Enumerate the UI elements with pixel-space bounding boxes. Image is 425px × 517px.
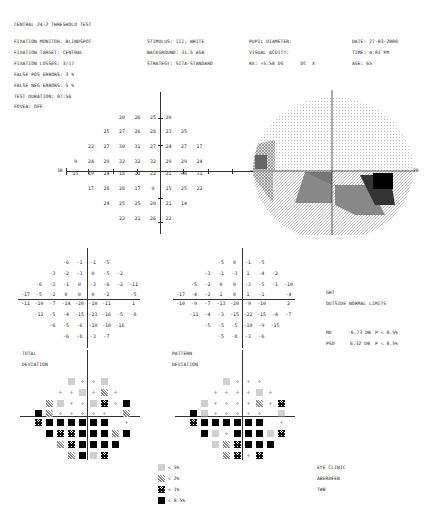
p05-icon — [123, 400, 130, 407]
p5-icon — [201, 400, 208, 407]
header-field: TIME: 4:01 PM — [352, 50, 389, 56]
header-field: FIXATION TARGET: CENTRAL — [14, 50, 83, 56]
deviation-value: -14 — [61, 301, 72, 307]
deviation-value: -11 — [189, 312, 200, 318]
fovea-status: FOVEA: OFF — [14, 104, 43, 110]
p05-icon — [245, 430, 252, 437]
deviation-value: -1 — [256, 292, 267, 298]
deviation-value: -9 — [256, 323, 267, 329]
threshold-value: 32 — [132, 159, 143, 165]
header-field: RX: +5.50 DS DC X — [249, 61, 315, 67]
p1-icon — [234, 452, 241, 459]
threshold-value: 25 — [117, 201, 128, 207]
deviation-value: -3 — [202, 271, 213, 277]
threshold-value: 25 — [179, 129, 190, 135]
deviation-value: -20 — [229, 301, 240, 307]
p05-icon — [245, 419, 252, 426]
deviation-value: -4 — [283, 292, 294, 298]
deviation-value: 0 — [229, 292, 240, 298]
deviation-value: -2 — [270, 271, 281, 277]
pd-label-line2: DEVIATION — [172, 362, 198, 368]
header-field: DATE: 27-03-2000 — [352, 39, 398, 45]
p5-icon — [212, 441, 219, 448]
threshold-value: 27 — [148, 144, 159, 150]
legend-p05-icon — [158, 497, 165, 504]
threshold-value: 28 — [117, 186, 128, 192]
p1-icon — [101, 452, 108, 459]
threshold-value: 21 — [132, 216, 143, 222]
threshold-value: 29 — [101, 159, 112, 165]
axis-tick — [158, 198, 163, 199]
deviation-value: -15 — [229, 312, 240, 318]
deviation-value: 1 — [243, 292, 254, 298]
p05-icon — [190, 410, 197, 417]
p1-icon — [190, 419, 197, 426]
p5-icon — [90, 400, 97, 407]
clinic-code: TWB — [317, 487, 326, 493]
normal-dot-icon — [236, 412, 239, 415]
p05-icon — [112, 441, 119, 448]
normal-dot-icon — [236, 391, 239, 394]
p05-icon — [57, 419, 64, 426]
threshold-value: 26 — [148, 216, 159, 222]
deviation-value: -7 — [202, 301, 213, 307]
deviation-value: -3 — [47, 271, 58, 277]
normal-dot-icon — [70, 412, 73, 415]
legend-label: < 1% — [168, 487, 179, 493]
normal-dot-icon — [81, 402, 84, 405]
md-value: -6.73 DB — [348, 330, 371, 336]
deviation-value: -5 — [256, 282, 267, 288]
axis-tick — [113, 169, 114, 174]
deviation-value: -7 — [283, 312, 294, 318]
deviation-value: -10 — [283, 282, 294, 288]
normal-dot-icon — [247, 391, 250, 394]
normal-dot-icon — [70, 402, 73, 405]
deviation-value: -10 — [175, 301, 186, 307]
threshold-value: 24 — [101, 201, 112, 207]
deviation-value: -7 — [47, 301, 58, 307]
p1-icon — [57, 430, 64, 437]
td-horizontal-axis — [18, 299, 140, 300]
deviation-value: -5 — [47, 312, 58, 318]
p1-icon — [278, 400, 285, 407]
deviation-value: -1 — [216, 271, 227, 277]
deviation-value: -10 — [101, 323, 112, 329]
threshold-value: 32 — [117, 159, 128, 165]
psd-p: P < 0.5% — [375, 341, 398, 347]
normal-dot-icon — [236, 380, 239, 383]
normal-dot-icon — [269, 402, 272, 405]
p5-icon — [278, 410, 285, 417]
legend-p5-icon — [158, 464, 165, 471]
deviation-value: 0 — [88, 292, 99, 298]
p05-icon — [79, 441, 86, 448]
deviation-value: -10 — [243, 323, 254, 329]
deviation-value: -3 — [47, 282, 58, 288]
normal-dot-icon — [81, 380, 84, 383]
td-label-line2: DEVIATION — [22, 362, 48, 368]
p05-icon — [46, 430, 53, 437]
deviation-value: -3 — [74, 271, 85, 277]
deviation-value: -11 — [20, 301, 31, 307]
deviation-value: -5 — [61, 323, 72, 329]
p5-icon — [79, 389, 86, 396]
p05-icon — [68, 419, 75, 426]
normal-dot-icon — [225, 391, 228, 394]
deviation-value: -1 — [243, 260, 254, 266]
deviation-value: -6 — [74, 323, 85, 329]
deviation-value: -2 — [202, 292, 213, 298]
deviation-value: -10 — [34, 301, 45, 307]
deviation-value: -1 — [88, 260, 99, 266]
md-label: MD — [326, 330, 332, 336]
deviation-value: -5 — [216, 323, 227, 329]
deviation-value: -2 — [115, 271, 126, 277]
deviation-value: -6 — [47, 323, 58, 329]
threshold-value: 23 — [163, 129, 174, 135]
deviation-value: -3 — [88, 334, 99, 340]
p1-icon — [68, 430, 75, 437]
threshold-value: 21 — [163, 201, 174, 207]
deviation-value: 1 — [128, 301, 139, 307]
threshold-value: 20 — [148, 201, 159, 207]
deviation-value: 0 — [216, 282, 227, 288]
deviation-value: -2 — [61, 271, 72, 277]
deviation-value: -3 — [88, 282, 99, 288]
